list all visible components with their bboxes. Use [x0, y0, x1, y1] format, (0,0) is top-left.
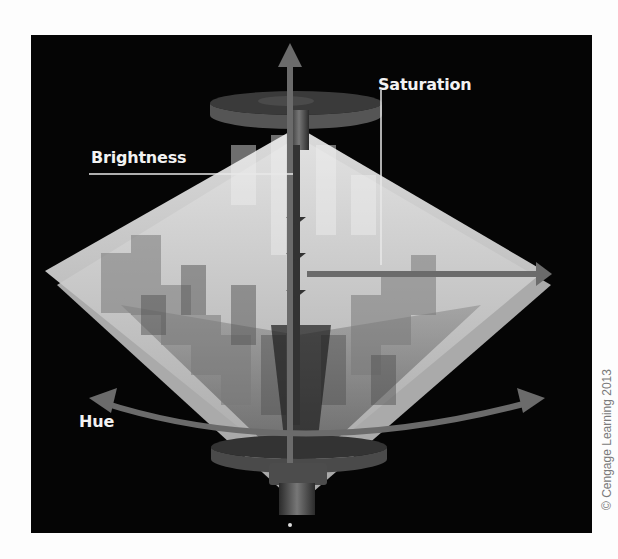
bottom-base	[211, 435, 387, 527]
brightness-label: Brightness	[91, 148, 186, 167]
copyright-notice: © Cengage Learning 2013	[600, 369, 614, 510]
hue-label: Hue	[79, 412, 114, 431]
diagram-panel: Saturation Brightness Hue	[31, 35, 592, 533]
hue-arrow-left-head	[89, 388, 117, 413]
hue-arrow-right-head	[517, 388, 545, 413]
hsb-cone-illustration	[31, 35, 592, 533]
saturation-label: Saturation	[378, 75, 472, 94]
